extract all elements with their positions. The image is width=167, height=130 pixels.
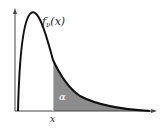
density-curve bbox=[18, 12, 150, 111]
alpha-label: α bbox=[59, 91, 66, 102]
y-axis-arrow-icon bbox=[13, 8, 17, 14]
x-marker-label: x bbox=[50, 114, 55, 124]
density-plot: fν(x) α x bbox=[0, 0, 167, 130]
x-axis-arrow-icon bbox=[151, 109, 157, 113]
curve-label: fν(x) bbox=[41, 15, 65, 29]
